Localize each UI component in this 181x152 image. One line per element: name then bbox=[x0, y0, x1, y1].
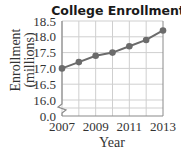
x-tick-label: 2011 bbox=[117, 119, 143, 134]
y-tick-label: 18.5 bbox=[33, 14, 56, 29]
y-tick-label: 18.0 bbox=[33, 29, 56, 44]
y-tick-label: 17.5 bbox=[33, 45, 56, 60]
y-axis-label-line1: Enrollment bbox=[8, 28, 23, 91]
data-point bbox=[160, 27, 167, 34]
y-tick-label: 16.5 bbox=[33, 77, 56, 92]
data-point bbox=[76, 59, 83, 66]
x-tick-label: 2013 bbox=[150, 119, 176, 134]
y-tick-labels: 18.518.017.517.016.516.00.0 bbox=[33, 14, 56, 124]
x-axis-label: Year bbox=[99, 135, 125, 150]
college-enrollment-chart: College Enrollment Enrollment (millions)… bbox=[0, 0, 181, 152]
data-point bbox=[143, 37, 150, 44]
data-point bbox=[59, 65, 66, 72]
data-point bbox=[92, 52, 99, 59]
x-tick-labels: 2007200920112013 bbox=[49, 119, 176, 134]
data-point bbox=[109, 49, 116, 56]
y-tick-label: 16.0 bbox=[33, 93, 56, 108]
x-tick-label: 2007 bbox=[49, 119, 76, 134]
chart-title: College Enrollment bbox=[51, 3, 181, 18]
data-point bbox=[126, 43, 133, 50]
y-tick-label: 17.0 bbox=[33, 61, 56, 76]
grid bbox=[62, 21, 163, 116]
x-tick-label: 2009 bbox=[83, 119, 109, 134]
